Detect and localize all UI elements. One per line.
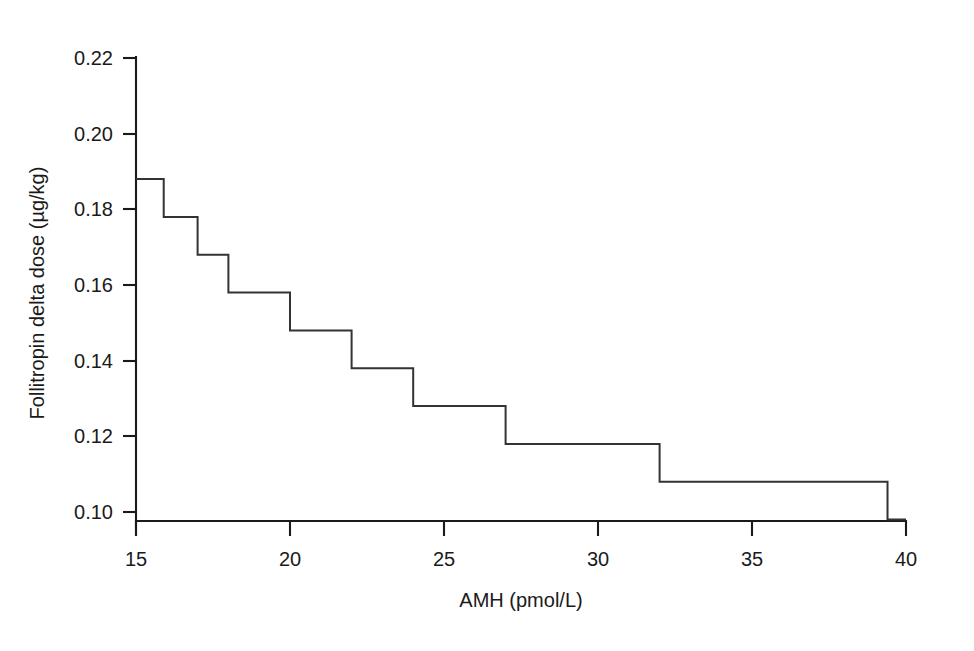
step-chart-svg: 0.22 0.20 0.18 0.16 0.14 0.12 0.10 15 20… <box>0 0 974 651</box>
y-tick-label: 0.14 <box>74 350 113 372</box>
x-tick-label: 30 <box>587 548 609 570</box>
x-tick-label: 20 <box>279 548 301 570</box>
y-tick-labels: 0.22 0.20 0.18 0.16 0.14 0.12 0.10 <box>74 47 113 523</box>
y-tick-label: 0.22 <box>74 47 113 69</box>
y-tick-label: 0.16 <box>74 274 113 296</box>
y-tick-label: 0.10 <box>74 501 113 523</box>
x-axis-title: AMH (pmol/L) <box>459 589 582 611</box>
y-tick-label: 0.18 <box>74 198 113 220</box>
y-axis-title: Follitropin delta dose (µg/kg) <box>26 167 48 420</box>
step-line-series <box>136 179 906 520</box>
x-tick-label: 40 <box>895 548 917 570</box>
x-tick-label: 35 <box>741 548 763 570</box>
x-tick-labels: 15 20 25 30 35 40 <box>125 548 917 570</box>
x-tick-marks <box>136 521 906 536</box>
chart-figure: 0.22 0.20 0.18 0.16 0.14 0.12 0.10 15 20… <box>0 0 974 651</box>
y-tick-marks <box>123 58 136 512</box>
x-tick-label: 15 <box>125 548 147 570</box>
y-tick-label: 0.20 <box>74 123 113 145</box>
x-tick-label: 25 <box>433 548 455 570</box>
y-tick-label: 0.12 <box>74 425 113 447</box>
